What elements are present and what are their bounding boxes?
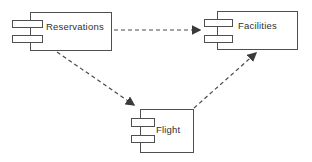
component-label-flight: Flight	[156, 124, 180, 135]
component-interface-tab-icon	[204, 19, 233, 27]
component-interface-tab-icon	[131, 135, 155, 143]
component-interface-tab-icon	[204, 35, 233, 43]
uml-component-diagram: Reservations Facilities Flight	[0, 0, 312, 162]
component-interface-tab-icon	[12, 35, 43, 43]
component-label-reservations: Reservations	[46, 21, 104, 32]
dependency-reservations-to-flight	[57, 52, 134, 105]
dependency-flight-to-facilities	[194, 53, 256, 108]
component-interface-tab-icon	[12, 20, 43, 28]
component-interface-tab-icon	[131, 118, 155, 127]
component-label-facilities: Facilities	[238, 20, 277, 31]
